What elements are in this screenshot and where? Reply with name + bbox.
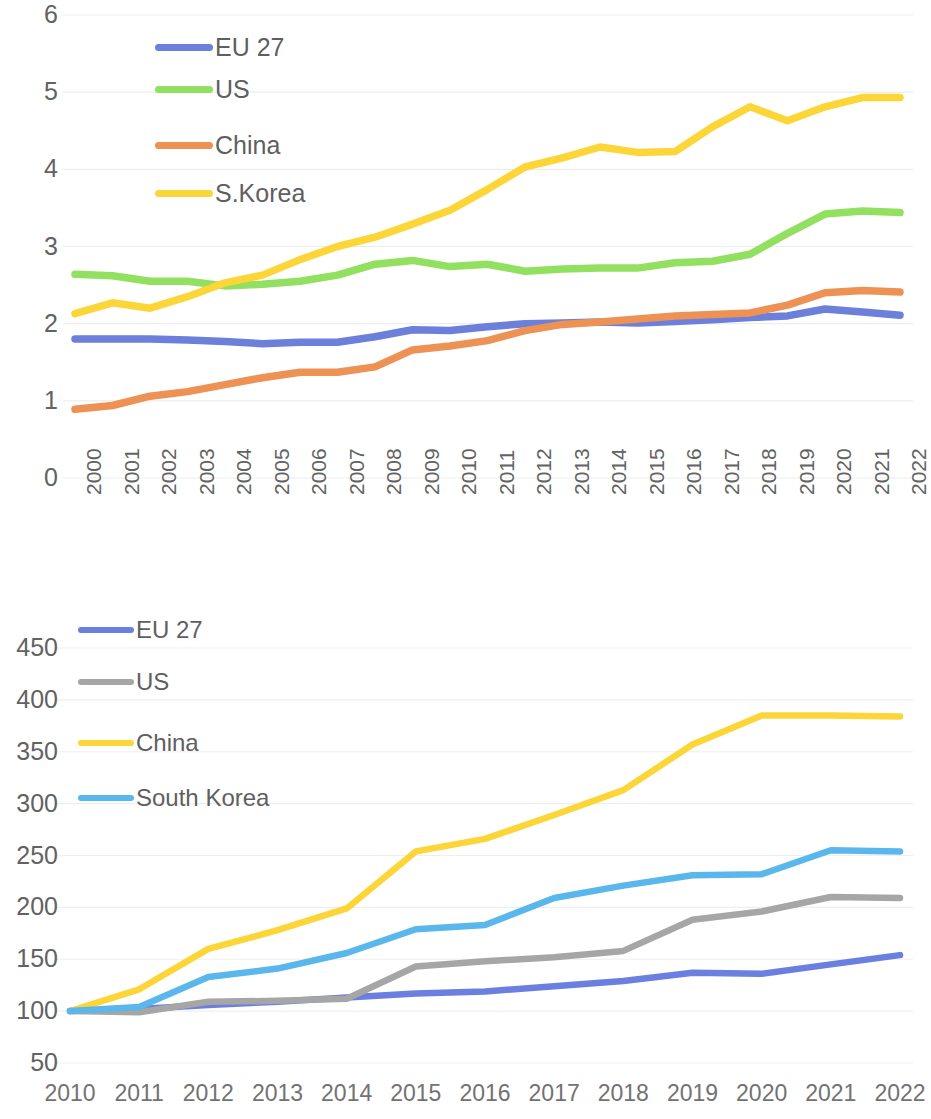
legend-swatch-icon [155,86,213,93]
y-tick-label: 5 [0,79,58,104]
x-tick-label: 2010 [458,448,479,495]
x-tick-label: 2001 [121,448,142,495]
legend-swatch-icon [78,795,134,801]
y-tick-label: 4 [0,156,58,181]
x-tick-label: 2012 [173,1082,243,1105]
legend-swatch-icon [78,627,134,633]
series-line-south-korea [70,850,900,1011]
y-tick-label: 1 [0,388,58,413]
legend-swatch-icon [155,44,213,51]
x-tick-label: 2017 [721,448,742,495]
line-chart-rd-intensity: 6543210 EU 27USChinaS.Korea 200020012002… [0,0,913,585]
x-tick-label: 2021 [871,448,892,495]
legend-item-s-korea[interactable]: S.Korea [155,176,305,210]
y-tick-label: 250 [0,843,58,868]
x-tick-label: 2013 [243,1082,313,1105]
x-tick-label: 2011 [104,1082,174,1105]
x-tick-label: 2018 [758,448,779,495]
x-tick-label: 2000 [83,448,104,495]
x-tick-label: 2011 [496,450,517,495]
x-tick-label: 2010 [35,1082,105,1105]
legend-item-china[interactable]: China [78,726,199,760]
legend-item-us[interactable]: US [155,72,250,106]
x-tick-label: 2015 [646,448,667,495]
legend-swatch-icon [155,142,213,149]
legend-label: EU 27 [215,35,284,60]
x-tick-label: 2016 [450,1082,520,1105]
y-tick-label: 200 [0,894,58,919]
legend-label: South Korea [136,786,269,810]
x-tick-label: 2021 [796,1082,866,1105]
x-tick-label: 2014 [312,1082,382,1105]
x-tick-label: 2013 [571,448,592,495]
legend-label: S.Korea [215,181,305,206]
legend-label: China [136,731,199,755]
legend-label: US [136,670,169,694]
legend-item-china[interactable]: China [155,128,280,162]
x-tick-label: 2017 [519,1082,589,1105]
y-tick-label: 2 [0,311,58,336]
y-tick-label: 100 [0,998,58,1023]
legend-label: China [215,133,280,158]
chart-top-plot [0,0,913,585]
y-tick-label: 50 [0,1050,58,1075]
y-tick-label: 0 [0,465,58,490]
x-tick-label: 2014 [608,448,629,495]
x-tick-label: 2009 [421,448,442,495]
x-tick-label: 2018 [588,1082,658,1105]
x-tick-label: 2004 [233,448,254,495]
legend-item-south-korea[interactable]: South Korea [78,781,269,815]
x-tick-label: 2012 [533,448,554,495]
x-tick-label: 2016 [683,448,704,495]
y-tick-label: 3 [0,234,58,259]
legend-label: US [215,77,250,102]
legend-swatch-icon [78,679,134,685]
legend-swatch-icon [155,190,213,197]
y-tick-label: 6 [0,2,58,27]
y-tick-label: 400 [0,687,58,712]
legend-label: EU 27 [136,618,203,642]
y-tick-label: 300 [0,791,58,816]
legend-swatch-icon [78,740,134,746]
y-tick-label: 450 [0,635,58,660]
legend-item-eu-27[interactable]: EU 27 [155,30,284,64]
y-tick-label: 350 [0,739,58,764]
legend-item-eu-27[interactable]: EU 27 [78,613,203,647]
x-tick-label: 2020 [727,1082,797,1105]
x-tick-label: 2019 [796,448,817,495]
x-tick-label: 2002 [158,448,179,495]
series-line-us [75,211,900,286]
y-tick-label: 150 [0,946,58,971]
x-tick-label: 2006 [308,448,329,495]
x-tick-label: 2003 [196,448,217,495]
x-tick-label: 2007 [346,448,367,495]
x-tick-label: 2019 [658,1082,728,1105]
line-chart-indexed-growth: 45040035030025020015010050 EU 27USChinaS… [0,585,913,1119]
x-tick-label: 2005 [271,448,292,495]
x-tick-label: 2020 [833,448,854,495]
x-tick-label: 2015 [381,1082,451,1105]
x-tick-label: 2022 [865,1082,931,1105]
x-tick-label: 2008 [383,448,404,495]
series-line-china [75,291,900,410]
legend-item-us[interactable]: US [78,665,169,699]
x-tick-label: 2022 [908,448,929,495]
